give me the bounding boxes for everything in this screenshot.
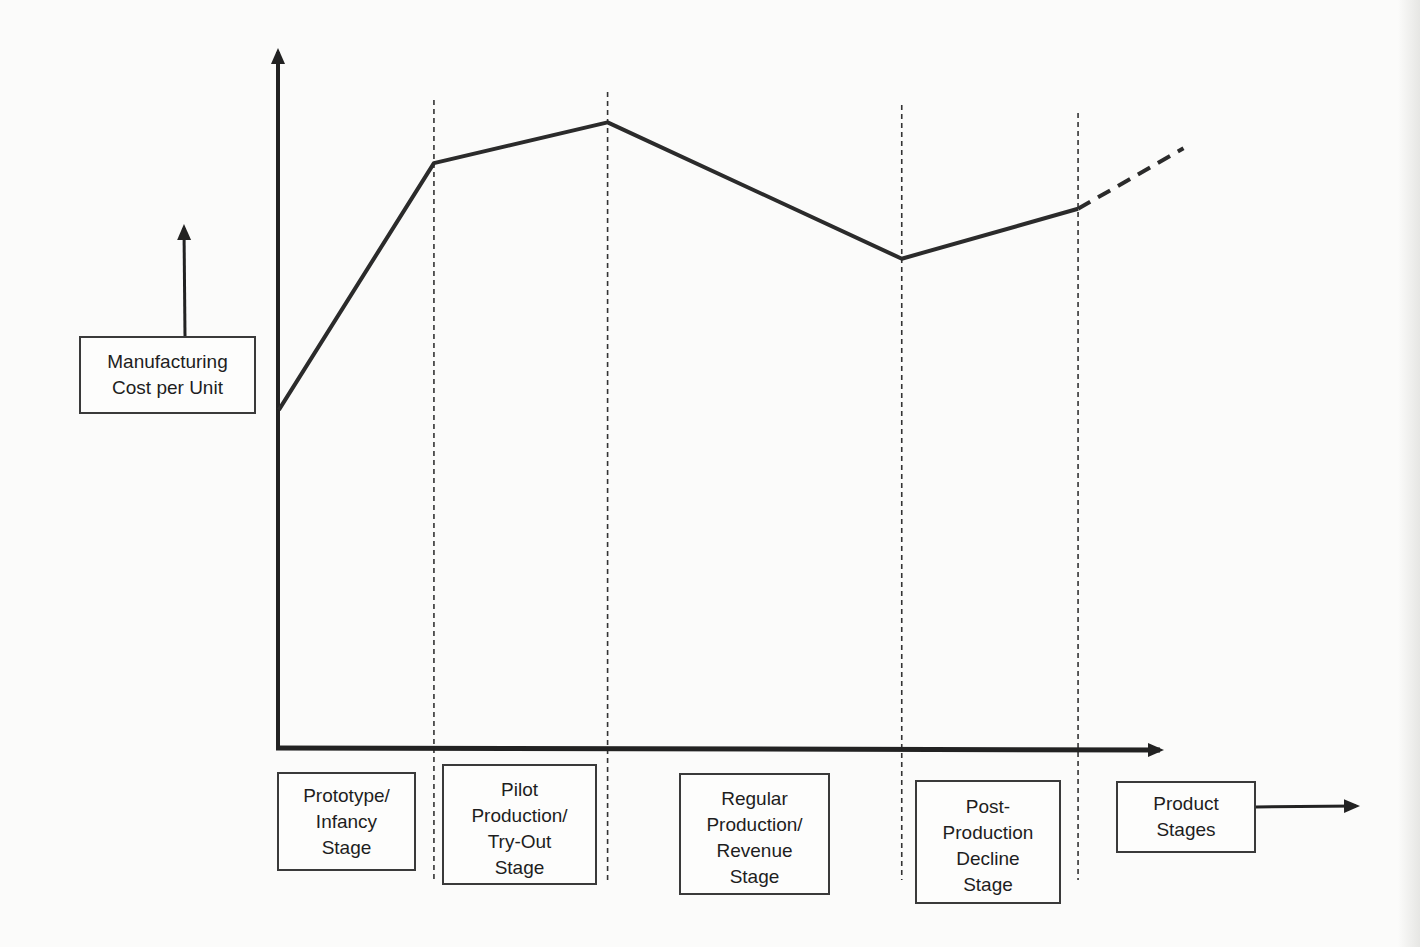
stage-label-line: Stage: [917, 872, 1059, 890]
stage-label-prototype: Prototype/ Infancy Stage: [277, 772, 416, 871]
stage-label-line: Pilot: [444, 777, 595, 803]
stage-label-line: Production: [917, 820, 1059, 846]
stage-label-line: Regular: [681, 786, 828, 812]
stage-label-line: Post-: [917, 794, 1059, 820]
stage-label-line: Stage: [444, 855, 595, 873]
x-label-arrow: [1256, 806, 1356, 807]
stage-label-line: Prototype/: [279, 783, 414, 809]
y-axis-label-line-1: Manufacturing: [81, 349, 254, 375]
stage-label-line: Production/: [444, 803, 595, 829]
stage-label-line: Try-Out: [444, 829, 595, 855]
stage-label-line: Infancy: [279, 809, 414, 835]
stage-label-line: Production/: [681, 812, 828, 838]
stage-label-line: Stage: [681, 864, 828, 882]
x-axis-label-box: Product Stages: [1116, 781, 1256, 853]
x-axis: [276, 748, 1160, 750]
x-axis-label-line-2: Stages: [1118, 817, 1254, 843]
stage-label-line: Decline: [917, 846, 1059, 872]
projected-trend-line: [1078, 148, 1183, 208]
y-axis-label-box: Manufacturing Cost per Unit: [79, 336, 256, 414]
y-label-arrow: [184, 228, 185, 336]
cost-series: [279, 122, 1184, 410]
stage-label-line: Revenue: [681, 838, 828, 864]
stage-label-post-production: Post- Production Decline Stage: [915, 780, 1061, 904]
stage-label-regular: Regular Production/ Revenue Stage: [679, 773, 830, 895]
x-axis-label-line-1: Product: [1118, 791, 1254, 817]
stage-divider-lines: [434, 92, 1078, 880]
stage-label-line: Stage: [279, 835, 414, 861]
stage-label-pilot: Pilot Production/ Try-Out Stage: [442, 764, 597, 885]
y-axis-label-line-2: Cost per Unit: [81, 375, 254, 401]
cost-line: [279, 122, 1078, 410]
scan-edge-shadow: [1398, 0, 1420, 947]
